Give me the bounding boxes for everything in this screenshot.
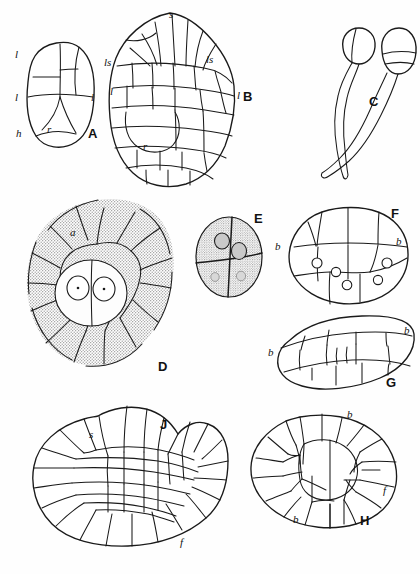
figure-a-label-l-left: l <box>15 91 18 103</box>
figure-c-sperm-left-tail <box>335 63 359 179</box>
figure-d-nucleolus-right <box>103 288 106 291</box>
figure-h-label-b-top: b <box>347 408 353 420</box>
figure-a: l l l h r A <box>15 42 98 147</box>
figure-d: a D <box>27 199 174 374</box>
figure-j: s f J <box>33 406 228 548</box>
figure-h: b b f H <box>251 408 397 528</box>
figure-c-sperm-right-tail <box>321 73 398 178</box>
figure-f-label-b-right: b <box>396 235 402 247</box>
figure-f-nucleus-5 <box>373 275 382 284</box>
figure-b-label-r: r <box>143 140 148 152</box>
figure-g-label-b-left: b <box>268 346 274 358</box>
figure-c: C <box>321 28 416 179</box>
figure-b: s ls ls l l r B <box>104 8 252 187</box>
figure-f-nucleus-2 <box>331 267 340 276</box>
figure-a-label-l-right: l <box>91 91 94 103</box>
figure-b-label-l-left: l <box>110 85 113 97</box>
figure-d-letter: D <box>158 359 167 374</box>
figure-j-letter: J <box>160 417 167 432</box>
figure-c-sperm-left-head <box>343 28 375 64</box>
figure-f: b b F <box>275 206 408 304</box>
figure-d-nucleolus-left <box>77 287 80 290</box>
figure-g: b b G <box>268 316 414 390</box>
figure-f-nucleus-4 <box>382 258 392 268</box>
plate-svg: l l l h r A <box>0 0 420 574</box>
figure-a-label-h: h <box>16 127 22 139</box>
figure-h-label-b-bottom: b <box>293 513 299 525</box>
figure-a-letter: A <box>88 126 98 141</box>
figure-b-label-ls-left: ls <box>104 56 111 68</box>
figure-g-label-b-right: b <box>404 324 410 336</box>
figure-f-nucleus-1 <box>312 258 322 268</box>
figure-a-label-r: r <box>47 123 52 135</box>
figure-f-label-b-left: b <box>275 240 281 252</box>
figure-j-outline <box>33 407 228 546</box>
figure-b-letter: B <box>243 89 252 104</box>
figure-f-nucleus-3 <box>342 280 352 290</box>
figure-h-letter: H <box>360 513 369 528</box>
figure-d-label-a: a <box>70 226 76 238</box>
figure-b-outline <box>109 13 234 187</box>
figure-a-label-l-top: l <box>15 48 18 60</box>
figure-f-letter: F <box>391 206 399 221</box>
figure-j-label-s: s <box>89 428 93 440</box>
figure-e-nucleus-upper-left <box>215 233 230 249</box>
figure-e-nucleus-lower-right <box>236 271 245 281</box>
figure-c-sperm-right-head <box>382 28 416 74</box>
illustration-plate: l l l h r A <box>0 0 420 574</box>
figure-e-nucleus-lower-left <box>211 273 219 282</box>
figure-h-outline <box>251 415 397 528</box>
figure-b-label-l-right: l <box>237 89 240 101</box>
figure-e-letter: E <box>254 211 263 226</box>
figure-e: E <box>196 211 263 297</box>
figure-e-nucleus-upper-right <box>232 243 247 260</box>
figure-g-letter: G <box>386 375 396 390</box>
figure-j-label-f: f <box>180 536 185 548</box>
figure-b-label-s: s <box>169 8 173 20</box>
figure-c-letter: C <box>369 94 379 109</box>
figure-b-label-ls-right: ls <box>206 53 213 65</box>
